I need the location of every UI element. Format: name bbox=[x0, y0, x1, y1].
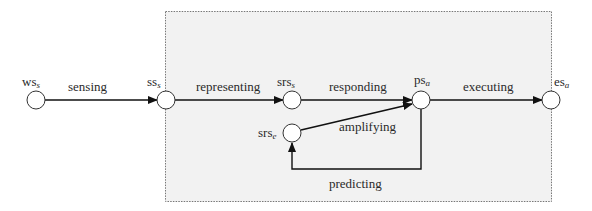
label-representing: representing bbox=[196, 79, 261, 94]
label-sensing: sensing bbox=[68, 79, 108, 94]
label-ws-s: wss bbox=[22, 74, 40, 90]
node-ws-s bbox=[27, 91, 45, 109]
node-ss-s bbox=[157, 91, 175, 109]
node-ps-a bbox=[412, 91, 430, 109]
label-executing: executing bbox=[463, 79, 514, 94]
label-ss-s: sss bbox=[147, 74, 161, 90]
label-responding: responding bbox=[329, 79, 387, 94]
label-amplifying: amplifying bbox=[339, 119, 397, 134]
label-predicting: predicting bbox=[329, 176, 382, 191]
label-es-a: esa bbox=[554, 74, 570, 90]
internal-process-box bbox=[166, 12, 552, 202]
process-diagram: wss sss srss srse psa esa sensing repres… bbox=[0, 0, 592, 211]
node-srs-e bbox=[283, 124, 301, 142]
node-srs-s bbox=[283, 91, 301, 109]
node-es-a bbox=[542, 91, 560, 109]
